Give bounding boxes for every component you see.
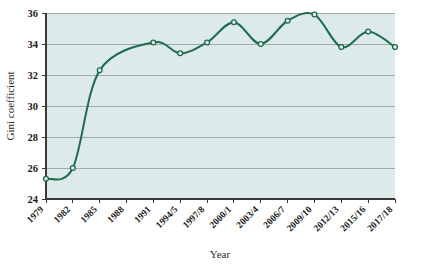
- x-tick-1985: 1985: [79, 204, 100, 225]
- data-point-2009-10: [312, 12, 317, 17]
- data-point-1991: [151, 40, 156, 45]
- x-tick-2006-7: 2006/7: [261, 204, 287, 230]
- x-tick-1988: 1988: [105, 204, 126, 225]
- y-tick-24: 24: [28, 194, 39, 205]
- x-tick-1982: 1982: [52, 204, 73, 225]
- x-tick-1991: 1991: [132, 204, 153, 225]
- data-point-1997-8: [205, 40, 210, 45]
- x-tick-2000-1: 2000/1: [208, 204, 234, 230]
- data-point-2012-13: [339, 45, 344, 50]
- x-axis-title: Year: [210, 248, 231, 260]
- y-tick-26: 26: [28, 163, 39, 174]
- data-point-2015-16: [366, 29, 371, 34]
- data-point-1985: [97, 68, 102, 73]
- x-tick-1994-5: 1994/5: [154, 204, 180, 230]
- y-tick-34: 34: [28, 39, 39, 50]
- chart-canvas: 24262830323436 197919821985198819911994/…: [0, 0, 422, 274]
- data-point-2006-7: [285, 18, 290, 23]
- x-tick-2012-13: 2012/13: [312, 204, 341, 233]
- x-tick-2003-4: 2003/4: [234, 204, 260, 230]
- y-axis-tick-labels: 24262830323436: [28, 8, 39, 205]
- x-tick-2009-10: 2009/10: [285, 204, 314, 233]
- x-tick-2017-18: 2017/18: [365, 204, 394, 233]
- data-point-2017-18: [393, 45, 398, 50]
- y-tick-36: 36: [28, 8, 39, 19]
- x-tick-1979: 1979: [25, 204, 46, 225]
- x-tick-2015-16: 2015/16: [338, 204, 367, 233]
- y-tick-32: 32: [28, 70, 39, 81]
- data-point-1994-5: [178, 51, 183, 56]
- y-tick-28: 28: [28, 132, 39, 143]
- data-point-2000-1: [232, 20, 237, 25]
- data-point-1982: [70, 166, 75, 171]
- y-axis-title: Gini coefficient: [4, 71, 16, 140]
- x-tick-1997-8: 1997/8: [181, 204, 207, 230]
- x-axis-tick-labels: 197919821985198819911994/51997/82000/120…: [25, 204, 395, 233]
- y-tick-30: 30: [28, 101, 39, 112]
- data-point-1979: [44, 176, 49, 181]
- data-point-2003-4: [258, 42, 263, 47]
- gini-coefficient-line-chart: 24262830323436 197919821985198819911994/…: [0, 0, 422, 274]
